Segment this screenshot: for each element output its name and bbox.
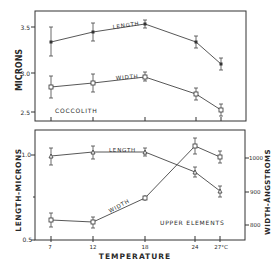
xtick-24: 24: [192, 244, 199, 250]
bottom-y2-axis-label: WIDTH-ÅNGSTROMS: [263, 149, 272, 235]
bottom-y2tick-900: 900: [250, 189, 261, 195]
xtick-27: 27°C: [214, 244, 228, 250]
top-length-label: LENGTH: [112, 20, 140, 30]
bottom-panel: 1.0 0.5 LENGTH-MICRONS 1000 900 800 WIDT…: [14, 130, 272, 261]
x-axis-label: TEMPERATURE: [99, 252, 171, 261]
bottom-panel-label: UPPER ELEMENTS: [160, 219, 225, 226]
figure: 3.5 3.0 2.5 MICRONS: [0, 0, 278, 264]
top-y-axis: [31, 27, 35, 112]
top-ytick-3.5: 3.5: [20, 24, 30, 31]
top-ytick-2.5: 2.5: [20, 109, 30, 116]
bottom-y2tick-1000: 1000: [249, 155, 263, 161]
bottom-y2tick-800: 800: [250, 222, 261, 228]
top-y-axis-label: MICRONS: [15, 49, 24, 91]
top-width-label: WIDTH: [116, 73, 139, 81]
xtick-12: 12: [90, 244, 97, 250]
bottom-left-y-axis: [31, 155, 35, 240]
bottom-y-axis-label: LENGTH-MICRONS: [14, 148, 23, 231]
top-length-series: [49, 20, 223, 70]
bottom-right-y-axis: [245, 158, 249, 225]
top-panel: 3.5 3.0 2.5 MICRONS: [15, 11, 246, 121]
xtick-18: 18: [142, 244, 149, 250]
top-frame: [35, 11, 246, 121]
xtick-7: 7: [48, 244, 52, 250]
top-x-ticks: [51, 117, 221, 121]
top-panel-label: COCCOLITH: [55, 107, 98, 114]
bottom-x-ticks: [51, 236, 220, 242]
bottom-ytick-0.5: 0.5: [22, 236, 32, 243]
bottom-length-label: LENGTH: [109, 147, 136, 153]
